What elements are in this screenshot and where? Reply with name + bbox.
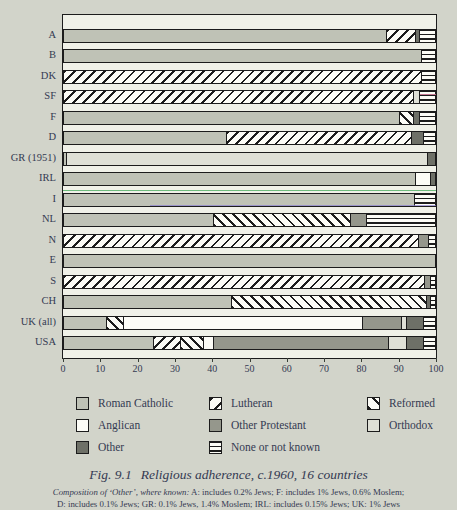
bar-segment-reformed (106, 317, 123, 329)
x-axis-tick-90 (399, 358, 400, 362)
legend-swatch-other (76, 441, 89, 454)
legend-swatch-other_protestant (209, 419, 222, 432)
legend-swatch-roman_catholic (76, 397, 89, 410)
x-axis-tick-label-80: 80 (346, 363, 376, 374)
bar-segment-orthodox (388, 337, 405, 349)
country-label-F: F (0, 110, 56, 124)
bar-segment-none_or_not_known (423, 132, 435, 144)
bar-segment-other (430, 173, 435, 185)
bar-segment-roman_catholic (64, 112, 399, 124)
x-axis-tick-50 (250, 358, 251, 362)
plot-area (62, 14, 437, 359)
note-italic-prefix: Composition of ‘Other’, where known: (53, 487, 190, 497)
bar-segment-roman_catholic (64, 194, 414, 206)
legend-swatch-none_or_not_known (209, 441, 222, 454)
bar-segment-lutheran (226, 132, 411, 144)
bar-segment-none_or_not_known (419, 112, 435, 124)
bar-segment-lutheran (64, 276, 424, 288)
legend-label-lutheran: Lutheran (231, 397, 273, 409)
x-axis-tick-label-60: 60 (272, 363, 302, 374)
country-label-S: S (0, 274, 56, 288)
x-axis-tick-80 (361, 358, 362, 362)
bar-segment-none_or_not_known (430, 276, 435, 288)
legend-item-other: Other (76, 440, 209, 454)
x-axis-tick-label-30: 30 (160, 363, 190, 374)
bar-segment-roman_catholic (64, 30, 386, 42)
bar-segment-none_or_not_known (430, 296, 435, 308)
bar-segment-lutheran (153, 337, 179, 349)
legend-label-reformed: Reformed (389, 397, 435, 409)
x-axis-tick-40 (212, 358, 213, 362)
bar-segment-other_protestant (213, 337, 389, 349)
country-label-D: D (0, 130, 56, 144)
legend-label-orthodox: Orthodox (389, 419, 433, 431)
bar-row-NL (63, 213, 436, 227)
legend-label-other: Other (98, 441, 124, 453)
country-label-B: B (0, 48, 56, 62)
bar-segment-lutheran (64, 91, 413, 103)
bar-segment-other (406, 317, 423, 329)
bar-row-GR-1951- (63, 152, 436, 166)
bar-segment-roman_catholic (64, 50, 421, 62)
country-label-CH: CH (0, 294, 56, 308)
bar-row-B (63, 49, 436, 63)
bar-segment-reformed (180, 337, 203, 349)
bar-row-CH (63, 295, 436, 309)
bar-segment-lutheran (64, 71, 421, 83)
bar-segment-reformed (213, 214, 350, 226)
bar-segment-lutheran (386, 30, 415, 42)
figure-title-text: Religious adherence, c.1960, 16 countrie… (141, 467, 368, 482)
figure-caption: Fig. 9.1Religious adherence, c.1960, 16 … (0, 467, 457, 483)
legend-swatch-lutheran (209, 397, 222, 410)
bar-segment-anglican (415, 173, 431, 185)
bar-segment-none_or_not_known (423, 337, 435, 349)
legend-label-other_protestant: Other Protestant (231, 419, 306, 431)
bar-segment-other (427, 153, 435, 165)
x-axis-tick-label-20: 20 (123, 363, 153, 374)
x-axis-tick-0 (63, 358, 64, 362)
x-axis-tick-20 (138, 358, 139, 362)
bar-row-I (63, 193, 436, 207)
x-axis-tick-100 (436, 358, 437, 362)
bar-segment-other_protestant (350, 214, 366, 226)
legend-item-roman_catholic: Roman Catholic (76, 396, 209, 410)
legend-label-anglican: Anglican (98, 419, 140, 431)
country-label-A: A (0, 28, 56, 42)
x-axis-tick-label-100: 100 (421, 363, 451, 374)
bar-row-USA (63, 336, 436, 350)
bar-segment-none_or_not_known (366, 214, 435, 226)
bar-segment-other_protestant (418, 235, 428, 247)
x-axis-tick-label-10: 10 (85, 363, 115, 374)
bar-segment-none_or_not_known (421, 50, 435, 62)
country-label-DK: DK (0, 69, 56, 83)
country-label-NL: NL (0, 212, 56, 226)
x-axis-tick-label-40: 40 (197, 363, 227, 374)
country-label-E: E (0, 253, 56, 267)
bar-segment-anglican (203, 337, 213, 349)
bar-segment-none_or_not_known (414, 194, 435, 206)
bar-segment-none_or_not_known (419, 30, 435, 42)
x-axis-tick-30 (175, 358, 176, 362)
legend-item-orthodox: Orthodox (367, 418, 448, 432)
bar-segment-roman_catholic (64, 132, 226, 144)
legend-swatch-anglican (76, 419, 89, 432)
figure-note-line2-clipped: D: includes 0.1% Jews; GR: 0.1% Jews, 1.… (0, 499, 457, 510)
country-label-UK-all-: UK (all) (0, 315, 56, 329)
bar-segment-none_or_not_known (423, 317, 435, 329)
legend-label-roman_catholic: Roman Catholic (98, 397, 173, 409)
x-axis-tick-label-0: 0 (48, 363, 78, 374)
bar-segment-anglican (123, 317, 361, 329)
bar-segment-other (411, 132, 423, 144)
bar-row-DK (63, 70, 436, 84)
country-label-USA: USA (0, 335, 56, 349)
bar-segment-none_or_not_known (419, 91, 435, 103)
country-label-GR-1951-: GR (1951) (0, 151, 56, 165)
bar-row-N (63, 234, 436, 248)
bar-segment-roman_catholic (64, 317, 106, 329)
bar-segment-roman_catholic (64, 173, 415, 185)
bar-segment-reformed (399, 112, 413, 124)
country-label-N: N (0, 233, 56, 247)
x-axis-tick-label-90: 90 (384, 363, 414, 374)
bar-segment-roman_catholic (64, 214, 213, 226)
legend-item-other_protestant: Other Protestant (209, 418, 367, 432)
